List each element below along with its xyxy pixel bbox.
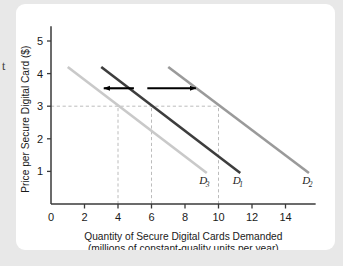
x-axis-tick-label: 2 — [81, 211, 87, 223]
x-axis-title-line1: Quantity of Secure Digital Cards Demande… — [84, 231, 283, 242]
y-axis-tick-label: 1 — [37, 165, 43, 177]
x-axis-tick-label: 0 — [48, 211, 54, 223]
reference-lines-group — [51, 106, 219, 204]
figure-card: 1234502468101214 D3D1D2Price per Secure … — [16, 4, 335, 250]
y-axis-title: Price per Secure Digital Card ($) — [20, 46, 31, 193]
y-axis-tick-label: 5 — [37, 35, 43, 47]
chart-labels-group: D3D1D2Price per Secure Digital Card ($)Q… — [20, 46, 313, 250]
demand-curve-D2 — [168, 67, 309, 173]
x-axis-tick-label: 4 — [115, 211, 121, 223]
demand-curves-group — [68, 67, 309, 173]
page-background: t 1234502468101214 D3D1D2Price per Secur… — [0, 0, 343, 266]
x-axis-title-line2: (millions of constant-quality units per … — [88, 243, 279, 250]
x-axis-tick-label: 14 — [279, 211, 291, 223]
demand-curve-chart: 1234502468101214 D3D1D2Price per Secure … — [16, 4, 335, 250]
demand-curve-D1 — [101, 67, 240, 173]
x-axis-tick-label: 10 — [212, 211, 224, 223]
x-axis-tick-label: 6 — [148, 211, 154, 223]
x-axis-tick-label: 8 — [182, 211, 188, 223]
demand-curve-D3 — [68, 67, 207, 173]
y-axis-tick-label: 4 — [37, 68, 43, 80]
curve-label-subscript-D3: 3 — [205, 180, 210, 189]
y-axis-tick-label: 3 — [37, 100, 43, 112]
curve-label-subscript-D2: 2 — [309, 180, 313, 189]
x-axis-tick-label: 12 — [246, 211, 258, 223]
margin-text-fragment: t — [2, 60, 5, 72]
y-axis-tick-label: 2 — [37, 133, 43, 145]
curve-label-subscript-D1: 1 — [239, 180, 243, 189]
